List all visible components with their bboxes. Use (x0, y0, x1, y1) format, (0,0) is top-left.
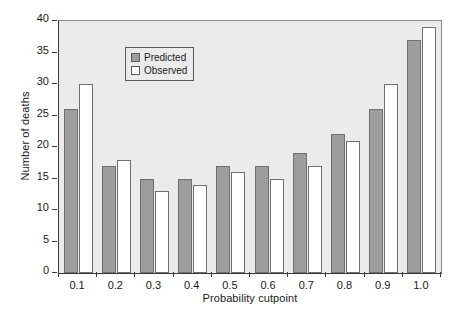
x-tick-label-0.3: 0.3 (134, 279, 174, 291)
x-tick-label-0.4: 0.4 (172, 279, 212, 291)
bar-observed-1.0 (422, 27, 436, 273)
y-tick-5: 5 (0, 241, 58, 242)
legend-swatch-observed-icon (131, 66, 140, 75)
bar-observed-0.5 (231, 172, 245, 273)
x-tick-mark (325, 272, 326, 277)
bar-predicted-0.1 (64, 109, 78, 273)
bar-observed-0.8 (346, 141, 360, 273)
plot-area: Predicted Observed (58, 20, 442, 274)
y-tick-mark (52, 178, 57, 179)
bar-predicted-0.3 (140, 179, 154, 274)
bar-predicted-0.2 (102, 166, 116, 273)
x-axis-title: Probability cutpoint (55, 292, 445, 304)
y-tick-label: 30 (37, 75, 49, 87)
y-tick-label: 15 (37, 170, 49, 182)
x-tick-label-0.5: 0.5 (210, 279, 250, 291)
legend-item-predicted: Predicted (131, 52, 187, 63)
y-tick-label: 10 (37, 201, 49, 213)
y-tick-mark (52, 83, 57, 84)
y-tick-10: 10 (0, 209, 58, 210)
x-tick-label-0.1: 0.1 (57, 279, 97, 291)
legend-item-observed: Observed (131, 65, 187, 76)
x-tick-mark (211, 272, 212, 277)
x-tick-label-1.0: 1.0 (401, 279, 441, 291)
x-tick-mark (173, 272, 174, 277)
y-tick-mark (52, 52, 57, 53)
x-tick-mark (249, 272, 250, 277)
legend-label-observed: Observed (144, 65, 187, 76)
bar-predicted-0.5 (216, 166, 230, 273)
x-tick-label-0.8: 0.8 (325, 279, 365, 291)
chart-legend: Predicted Observed (125, 47, 194, 81)
y-tick-15: 15 (0, 178, 58, 179)
y-tick-label: 20 (37, 138, 49, 150)
bar-predicted-0.4 (178, 179, 192, 274)
bar-observed-0.7 (308, 166, 322, 273)
bar-chart: Number of deaths 0510152025303540 Predic… (0, 0, 454, 316)
y-tick-label: 5 (43, 233, 49, 245)
y-tick-mark (52, 272, 57, 273)
bar-predicted-1.0 (407, 40, 421, 273)
bar-observed-0.9 (384, 84, 398, 273)
y-tick-25: 25 (0, 115, 58, 116)
bar-observed-0.3 (155, 191, 169, 273)
bar-predicted-0.8 (331, 134, 345, 273)
y-tick-mark (52, 146, 57, 147)
bar-observed-0.1 (79, 84, 93, 273)
x-tick-mark (58, 272, 59, 277)
bar-observed-0.4 (193, 185, 207, 273)
x-tick-mark (402, 272, 403, 277)
x-tick-label-0.7: 0.7 (286, 279, 326, 291)
x-tick-label-0.9: 0.9 (363, 279, 403, 291)
x-tick-mark (287, 272, 288, 277)
y-tick-0: 0 (0, 272, 58, 273)
bar-observed-0.2 (117, 160, 131, 273)
y-tick-label: 40 (37, 12, 49, 24)
bar-predicted-0.9 (369, 109, 383, 273)
x-tick-label-0.2: 0.2 (95, 279, 135, 291)
y-tick-label: 25 (37, 107, 49, 119)
x-tick-mark (440, 272, 441, 277)
x-tick-label-0.6: 0.6 (248, 279, 288, 291)
y-axis-title: Number of deaths (14, 0, 36, 272)
y-tick-mark (52, 209, 57, 210)
y-tick-20: 20 (0, 146, 58, 147)
y-tick-mark (52, 241, 57, 242)
y-tick-mark (52, 115, 57, 116)
y-tick-mark (52, 20, 57, 21)
y-tick-label: 35 (37, 44, 49, 56)
legend-label-predicted: Predicted (144, 52, 186, 63)
y-tick-30: 30 (0, 83, 58, 84)
y-tick-35: 35 (0, 52, 58, 53)
legend-swatch-predicted-icon (131, 53, 140, 62)
x-tick-mark (134, 272, 135, 277)
x-tick-mark (96, 272, 97, 277)
y-tick-label: 0 (43, 264, 49, 276)
bar-observed-0.6 (270, 179, 284, 274)
x-tick-mark (364, 272, 365, 277)
bar-predicted-0.6 (255, 166, 269, 273)
y-tick-40: 40 (0, 20, 58, 21)
bar-predicted-0.7 (293, 153, 307, 273)
